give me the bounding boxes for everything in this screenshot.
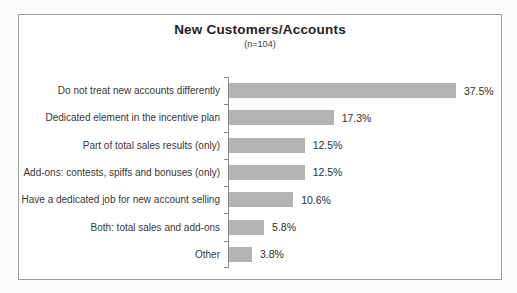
category-label: Dedicated element in the incentive plan (19, 112, 228, 123)
bar-row: Dedicated element in the incentive plan1… (19, 104, 491, 131)
category-label: Other (19, 249, 228, 260)
bar (229, 165, 305, 180)
value-label: 17.3% (342, 112, 372, 124)
bar (229, 138, 305, 153)
chart-frame: New Customers/Accounts (n=104) Do not tr… (18, 14, 502, 280)
value-label: 37.5% (464, 85, 494, 97)
bar-row: Both: total sales and add-ons5.8% (19, 213, 491, 240)
bar-row: Do not treat new accounts differently37.… (19, 77, 491, 104)
axis-tick (224, 159, 228, 160)
bar-cell: 3.8% (228, 241, 491, 268)
category-label: Do not treat new accounts differently (19, 85, 228, 96)
bar-row: Other3.8% (19, 241, 491, 268)
bar-cell: 17.3% (228, 104, 491, 131)
axis-tick (224, 132, 228, 133)
title-block: New Customers/Accounts (n=104) (19, 15, 501, 50)
bar-cell: 10.6% (228, 186, 491, 213)
bar-row: Add-ons: contests, spiffs and bonuses (o… (19, 159, 491, 186)
value-label: 5.8% (272, 221, 296, 233)
bar (229, 247, 252, 262)
axis-tick (224, 104, 228, 105)
bar-row: Have a dedicated job for new account sel… (19, 186, 491, 213)
bar (229, 110, 334, 125)
chart-subtitle: (n=104) (19, 39, 501, 50)
bar (229, 220, 264, 235)
bar (229, 83, 456, 98)
category-label: Have a dedicated job for new account sel… (19, 194, 228, 205)
bar-row: Part of total sales results (only)12.5% (19, 132, 491, 159)
axis-tick (224, 213, 228, 214)
axis-tick (224, 186, 228, 187)
bar-cell: 37.5% (228, 77, 491, 104)
value-label: 10.6% (301, 194, 331, 206)
category-label: Part of total sales results (only) (19, 140, 228, 151)
bar-cell: 5.8% (228, 213, 491, 240)
axis-tick (224, 267, 228, 268)
axis-tick (224, 77, 228, 78)
chart-title: New Customers/Accounts (19, 22, 501, 38)
value-label: 12.5% (313, 166, 343, 178)
bar-cell: 12.5% (228, 159, 491, 186)
axis-tick (224, 241, 228, 242)
category-label: Both: total sales and add-ons (19, 222, 228, 233)
value-label: 12.5% (313, 139, 343, 151)
bar (229, 192, 293, 207)
value-label: 3.8% (260, 248, 284, 260)
plot-area: Do not treat new accounts differently37.… (19, 77, 491, 268)
bar-cell: 12.5% (228, 132, 491, 159)
category-label: Add-ons: contests, spiffs and bonuses (o… (19, 167, 228, 178)
